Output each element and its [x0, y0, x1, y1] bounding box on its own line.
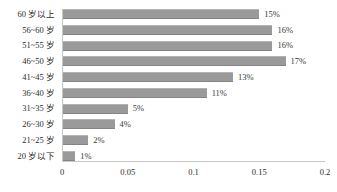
bar-data-label: 11%	[212, 89, 227, 98]
y-axis-tick-label: 51~55 岁	[0, 41, 58, 51]
y-axis-tick-label: 26~30 岁	[0, 119, 58, 129]
bar-row: 16%	[62, 41, 325, 51]
bar-data-label: 16%	[277, 26, 293, 35]
x-axis-tick-label: 0.2	[320, 168, 331, 177]
bar-data-label: 13%	[238, 73, 254, 82]
x-axis-line	[62, 161, 325, 162]
bar	[62, 88, 207, 98]
bar-row: 17%	[62, 56, 325, 66]
bar-data-label: 2%	[93, 136, 104, 145]
x-axis-tick-label: 0.15	[252, 168, 267, 177]
x-axis-tick-label: 0.05	[120, 168, 135, 177]
bar-data-label: 16%	[277, 41, 293, 50]
y-axis-tick-label: 36~40 岁	[0, 88, 58, 98]
bar	[62, 135, 88, 145]
plot-area: 15% 16% 16% 17% 13% 11%	[62, 9, 325, 161]
bar	[62, 119, 115, 129]
y-axis-tick-label: 46~50 岁	[0, 56, 58, 66]
bar	[62, 25, 272, 35]
bar	[62, 151, 75, 161]
bar-row: 1%	[62, 151, 325, 161]
y-axis-tick-label: 56~60 岁	[0, 25, 58, 35]
bar-row: 13%	[62, 72, 325, 82]
bar	[62, 41, 272, 51]
y-axis-tick-label: 21~25 岁	[0, 135, 58, 145]
bar	[62, 9, 259, 19]
bar-row: 15%	[62, 9, 325, 19]
bar-row: 5%	[62, 104, 325, 114]
bar-data-label: 15%	[264, 10, 280, 19]
bar-row: 11%	[62, 88, 325, 98]
y-axis-tick-label: 31~35 岁	[0, 104, 58, 114]
x-axis-tick-label: 0.1	[188, 168, 199, 177]
bar-row: 4%	[62, 119, 325, 129]
bar-data-label: 1%	[80, 152, 91, 161]
bar-row: 16%	[62, 25, 325, 35]
bar	[62, 104, 128, 114]
bar-data-label: 5%	[133, 104, 144, 113]
bar	[62, 72, 233, 82]
y-axis-tick-label: 20 岁以下	[0, 151, 58, 161]
y-axis-category-labels: 60 岁以上 56~60 岁 51~55 岁 46~50 岁 41~45 岁 3…	[0, 9, 58, 161]
y-axis-line	[62, 9, 63, 161]
y-axis-tick-label: 41~45 岁	[0, 72, 58, 82]
y-axis-tick-label: 60 岁以上	[0, 9, 58, 19]
bar-data-label: 17%	[291, 57, 307, 66]
bar-chart: 60 岁以上 56~60 岁 51~55 岁 46~50 岁 41~45 岁 3…	[0, 0, 337, 192]
bar	[62, 56, 286, 66]
bar-row: 2%	[62, 135, 325, 145]
bar-series: 15% 16% 16% 17% 13% 11%	[62, 9, 325, 161]
bar-data-label: 4%	[120, 120, 131, 129]
x-axis-tick-label: 0	[60, 168, 64, 177]
x-axis-tick-labels: 0 0.05 0.1 0.15 0.2	[62, 168, 325, 182]
